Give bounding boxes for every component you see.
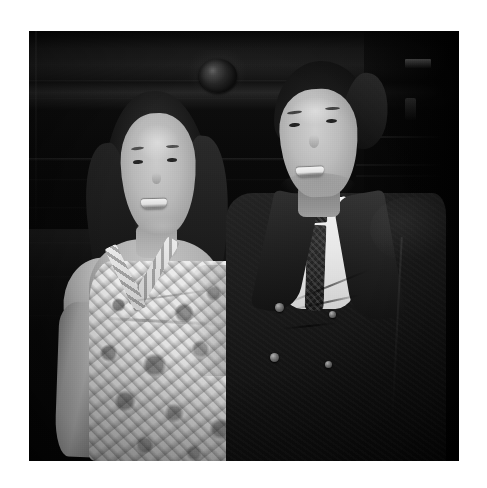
man-jaw-shadow: [280, 173, 356, 201]
man-jacket-button: [325, 361, 332, 368]
man-jacket-button: [270, 353, 279, 362]
man-jacket-button: [275, 303, 284, 312]
woman-nose: [152, 173, 161, 184]
woman-eye-right: [167, 158, 177, 162]
background-vertical-moulding: [35, 31, 37, 233]
background-round-medallion: [199, 59, 237, 93]
couple-portrait-photo: [29, 31, 459, 461]
woman-smile: [141, 199, 167, 209]
man-shoulder-highlight: [370, 197, 450, 261]
subject-man: [235, 61, 459, 461]
page-root: Black and white photograph of a smiling …: [0, 0, 487, 488]
woman-chin: [143, 217, 182, 235]
man-eyebrow-right: [325, 106, 340, 110]
